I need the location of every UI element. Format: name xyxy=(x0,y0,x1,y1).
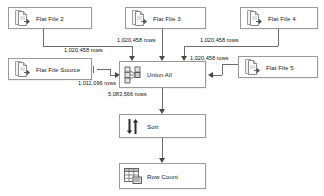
union-all-icon xyxy=(123,66,143,84)
node-flat-file-5[interactable]: Flat File 5 xyxy=(238,56,318,78)
edge-label-flat-file-2: 1,020,458 rows xyxy=(64,47,103,53)
node-flat-file-4[interactable]: Flat File 4 xyxy=(240,7,318,29)
wire-ff4-horizontal xyxy=(184,46,278,47)
node-label: Flat File 3 xyxy=(153,15,181,22)
wire-ff5-vertical xyxy=(222,64,223,75)
node-flat-file-3[interactable]: Flat File 3 xyxy=(125,7,206,29)
wire-unionall-to-sort xyxy=(162,88,163,109)
edge-label-flat-file-source: 1,011,096 rows xyxy=(78,80,116,86)
node-label: Union All xyxy=(147,71,172,78)
node-label: Flat File 2 xyxy=(36,15,64,22)
data-flow-canvas: Flat File 2 Flat File 3 xyxy=(0,0,324,196)
wire-sort-to-rowcount xyxy=(162,138,163,158)
node-label: Flat File 5 xyxy=(266,64,294,71)
node-flat-file-source[interactable]: Flat File Source xyxy=(8,58,92,80)
edge-label-union-all: 5,083,566 rows xyxy=(108,91,147,97)
node-flat-file-2[interactable]: Flat File 2 xyxy=(8,7,92,29)
flat-file-source-icon xyxy=(244,9,264,27)
wire-ff5-horizontal-2 xyxy=(213,75,222,76)
flat-file-source-icon xyxy=(129,9,149,27)
node-label: Row Count xyxy=(147,173,178,180)
wire-ff2-vertical-1 xyxy=(43,29,44,46)
wire-ff4-vertical-1 xyxy=(278,29,279,46)
wire-ff3-vertical xyxy=(162,29,163,56)
row-count-icon xyxy=(123,167,143,185)
wire-source-outport-tick xyxy=(93,66,94,73)
arrowhead-ff5-to-unionall xyxy=(208,72,213,78)
node-sort[interactable]: Sort xyxy=(119,114,206,138)
node-row-count[interactable]: Row Count xyxy=(119,163,206,189)
edge-label-flat-file-3: 1,020,458 rows xyxy=(117,37,156,43)
flat-file-source-icon xyxy=(12,9,32,27)
flat-file-source-icon xyxy=(12,60,32,78)
sort-icon xyxy=(123,117,143,135)
edge-label-flat-file-5: 1,020,458 rows xyxy=(190,55,229,61)
flat-file-source-icon xyxy=(242,58,262,76)
node-label: Flat File Source xyxy=(36,66,80,73)
node-label: Sort xyxy=(147,123,159,130)
wire-source-horizontal-1 xyxy=(97,69,111,70)
node-label: Flat File 4 xyxy=(268,15,296,22)
node-union-all[interactable]: Union All xyxy=(119,61,206,88)
edge-label-flat-file-4: 1,020,458 rows xyxy=(200,37,239,43)
